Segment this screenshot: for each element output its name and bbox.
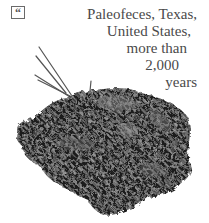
specimen-body: [17, 88, 191, 215]
specimen-photo: [0, 0, 209, 223]
